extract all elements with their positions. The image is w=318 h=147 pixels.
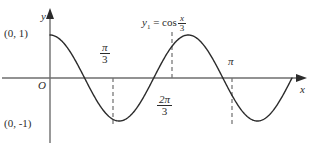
equation-argument-fraction: x 3 [178,14,187,33]
point-label-min: (0, -1) [4,118,32,129]
origin-label: O [38,80,46,91]
x-axis-label: x [300,84,305,95]
tick-label-two-pi-over-3-numerator: 2π [157,94,172,105]
equation-equals: = [153,16,159,28]
function-graph-figure: y x O (0, 1) (0, -1) π 3 2π 3 π y1 = cos… [0,0,318,147]
tick-label-pi-over-3-numerator: π [100,42,110,53]
equation-function: cos [162,16,177,28]
tick-label-two-pi-over-3-denominator: 3 [157,105,172,117]
equation-label: y1 = cos x 3 [142,14,186,33]
tick-label-pi: π [228,56,234,67]
tick-label-pi-over-3: π 3 [100,42,110,65]
x-axis-arrowhead [296,74,307,82]
equation-argument-denominator: 3 [178,23,187,33]
tick-label-pi-over-3-denominator: 3 [100,53,110,65]
equation-argument-numerator: x [178,14,187,23]
y-axis-arrowhead [46,8,54,19]
tick-label-two-pi-over-3: 2π 3 [157,94,172,117]
point-label-max: (0, 1) [4,28,28,39]
equation-lhs-subscript: 1 [147,23,151,31]
y-axis-label: y [41,11,46,22]
